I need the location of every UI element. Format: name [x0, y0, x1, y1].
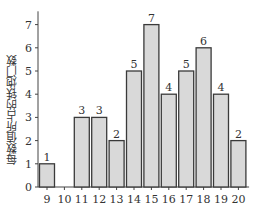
- x-tick-label: 11: [75, 193, 89, 206]
- bar-value-label: 2: [113, 128, 120, 141]
- bar: [109, 141, 124, 187]
- bar: [74, 117, 89, 187]
- bar: [127, 71, 142, 187]
- bar: [196, 48, 211, 187]
- bar-value-label: 5: [183, 58, 190, 71]
- bar: [231, 141, 246, 187]
- y-tick-label: 2: [25, 135, 32, 148]
- y-tick-label: 6: [25, 42, 32, 55]
- x-tick-label: 15: [144, 193, 158, 206]
- bar: [92, 117, 107, 187]
- x-tick-label: 18: [197, 193, 211, 206]
- bar-value-label: 5: [131, 58, 138, 71]
- bar: [179, 71, 194, 187]
- bar-value-label: 4: [218, 81, 225, 94]
- bar-value-label: 3: [96, 104, 103, 117]
- x-tick-label: 14: [127, 193, 141, 206]
- y-tick-label: 4: [25, 88, 32, 101]
- x-tick-label: 13: [110, 193, 124, 206]
- y-tick-label: 0: [25, 181, 32, 194]
- x-tick-label: 16: [162, 193, 176, 206]
- bar: [161, 94, 176, 187]
- x-tick-label: 17: [179, 193, 193, 206]
- x-tick-label: 9: [44, 193, 51, 206]
- x-tick-label: 10: [57, 193, 71, 206]
- bar-value-label: 2: [235, 128, 242, 141]
- bar-value-label: 6: [200, 35, 207, 48]
- bar-value-label: 3: [78, 104, 85, 117]
- bar: [214, 94, 229, 187]
- bar-value-label: 4: [165, 81, 172, 94]
- x-tick-label: 19: [214, 193, 228, 206]
- y-tick-label: 1: [25, 158, 32, 171]
- chart-canvas: 0123456791101131231321451571641751861942…: [0, 0, 261, 216]
- bar: [144, 25, 159, 187]
- x-tick-label: 20: [231, 193, 245, 206]
- y-tick-label: 7: [25, 19, 32, 32]
- y-tick-label: 5: [25, 65, 32, 78]
- bar: [40, 164, 55, 187]
- bar-value-label: 1: [44, 151, 51, 164]
- y-tick-label: 3: [25, 111, 32, 124]
- bar-value-label: 7: [148, 12, 155, 25]
- x-tick-label: 12: [92, 193, 106, 206]
